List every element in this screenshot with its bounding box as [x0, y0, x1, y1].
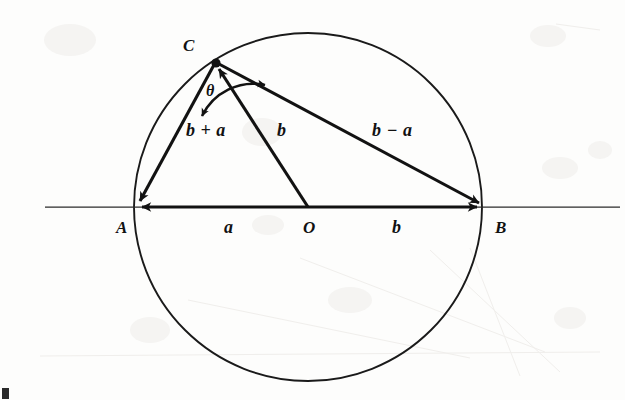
vector-b-radius-arrow: [219, 69, 308, 207]
vertex-c-node: [211, 58, 220, 67]
label-vector-b-radius: b: [277, 121, 287, 139]
vector-circle-figure: [0, 0, 625, 400]
label-vector-b-minus-a: b − a: [372, 121, 412, 139]
label-vector-b-diameter: b: [392, 218, 402, 236]
label-point-a: A: [116, 219, 127, 236]
page-corner-mark: [2, 388, 9, 399]
label-point-o: O: [303, 219, 315, 236]
label-angle-theta: θ: [206, 83, 214, 99]
diagram-page: A O B C b + a b b − a a b θ: [0, 0, 625, 400]
label-vector-b-plus-a: b + a: [186, 121, 226, 139]
label-point-c: C: [183, 37, 194, 54]
label-vector-a: a: [224, 218, 234, 236]
label-point-b: B: [495, 219, 506, 236]
